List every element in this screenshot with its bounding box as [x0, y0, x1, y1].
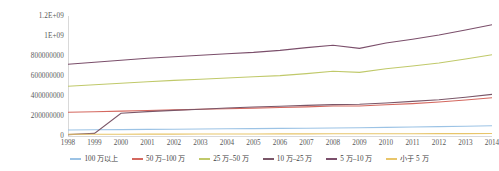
- x-tick-label: 2002: [167, 139, 181, 148]
- y-tick-label: 1.2E+09: [2, 12, 64, 20]
- legend-swatch: [132, 158, 143, 160]
- legend-label: 小于 5 万: [400, 155, 428, 164]
- legend-item[interactable]: 小于 5 万: [386, 155, 428, 164]
- x-tick-label: 1999: [87, 139, 101, 148]
- x-tick-label: 2000: [114, 139, 128, 148]
- legend-label: 5 万–10 万: [340, 155, 372, 164]
- legend-item[interactable]: 50 万–100 万: [132, 155, 185, 164]
- x-tick-label: 2007: [299, 139, 313, 148]
- x-tick-label: 2010: [379, 139, 393, 148]
- legend-label: 25 万–50 万: [213, 155, 249, 164]
- legend-swatch: [326, 158, 337, 160]
- series-line: [68, 134, 492, 135]
- x-tick-label: 2004: [220, 139, 234, 148]
- legend-label: 10 万–25 万: [277, 155, 313, 164]
- x-tick-label: 2009: [352, 139, 366, 148]
- y-tick-label: 400000000: [2, 92, 64, 100]
- y-tick-label: 0: [2, 132, 64, 140]
- x-tick-label: 2003: [193, 139, 207, 148]
- x-tick-label: 2011: [405, 139, 419, 148]
- x-tick-label: 2012: [432, 139, 446, 148]
- chart-root: 1.2E+091E+098000000006000000004000000002…: [0, 0, 499, 171]
- plot-area: [68, 16, 492, 136]
- series-lines: [68, 16, 492, 136]
- x-tick-label: 2006: [273, 139, 287, 148]
- legend-item[interactable]: 5 万–10 万: [326, 155, 372, 164]
- legend-label: 100 万以上: [84, 155, 118, 164]
- x-tick-label: 2001: [140, 139, 154, 148]
- x-axis-tick-labels: 1998199920002001200220032004200520062007…: [68, 139, 492, 151]
- legend-label: 50 万–100 万: [146, 155, 185, 164]
- x-tick-label: 2008: [326, 139, 340, 148]
- y-tick-label: 800000000: [2, 52, 64, 60]
- legend-swatch: [199, 158, 210, 160]
- legend-swatch: [386, 158, 397, 160]
- x-tick-label: 2014: [485, 139, 499, 148]
- x-tick-label: 2013: [458, 139, 472, 148]
- x-tick-label: 2005: [246, 139, 260, 148]
- legend-swatch: [263, 158, 274, 160]
- x-axis-line: [68, 136, 492, 137]
- legend-item[interactable]: 25 万–50 万: [199, 155, 249, 164]
- y-tick-label: 200000000: [2, 112, 64, 120]
- series-line: [68, 25, 492, 65]
- legend-swatch: [70, 158, 81, 160]
- y-tick-label: 600000000: [2, 72, 64, 80]
- chart-legend: 100 万以上50 万–100 万25 万–50 万10 万–25 万5 万–1…: [0, 152, 499, 166]
- y-axis-tick-labels: 1.2E+091E+098000000006000000004000000002…: [0, 0, 64, 171]
- y-tick-label: 1E+09: [2, 32, 64, 40]
- series-line: [68, 126, 492, 130]
- legend-item[interactable]: 10 万–25 万: [263, 155, 313, 164]
- legend-item[interactable]: 100 万以上: [70, 155, 118, 164]
- x-tick-label: 1998: [61, 139, 75, 148]
